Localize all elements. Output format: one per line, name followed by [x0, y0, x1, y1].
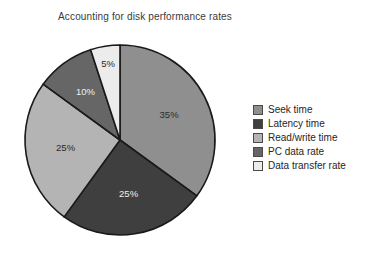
legend-item-label: Latency time	[268, 118, 325, 130]
legend-item[interactable]: Read/write time	[253, 131, 371, 145]
legend-item[interactable]: Data transfer rate	[253, 159, 371, 173]
pie-slice-value-label: 35%	[160, 109, 180, 120]
legend-swatch-icon	[253, 147, 263, 157]
pie-slice-value-label: 25%	[56, 142, 76, 153]
pie-slice-value-label: 25%	[119, 188, 139, 199]
legend-item[interactable]: PC data rate	[253, 145, 371, 159]
chart-legend: Seek timeLatency timeRead/write timePC d…	[253, 103, 371, 173]
legend-item[interactable]: Seek time	[253, 103, 371, 117]
pie-chart-svg: 35%25%25%10%5%	[24, 43, 218, 239]
legend-item-label: Data transfer rate	[268, 160, 346, 172]
legend-swatch-icon	[253, 119, 263, 129]
legend-item-label: PC data rate	[268, 146, 324, 158]
legend-swatch-icon	[253, 133, 263, 143]
chart-title: Accounting for disk performance rates	[0, 11, 290, 22]
legend-swatch-icon	[253, 105, 263, 115]
pie-chart-plot-area: 35%25%25%10%5%	[24, 43, 218, 239]
legend-swatch-icon	[253, 161, 263, 171]
pie-slice-value-label: 10%	[76, 86, 96, 97]
legend-item-label: Read/write time	[268, 132, 337, 144]
pie-chart-figure: Accounting for disk performance rates 35…	[0, 0, 373, 255]
legend-item-label: Seek time	[268, 104, 312, 116]
pie-slice-value-label: 5%	[101, 58, 115, 69]
legend-item[interactable]: Latency time	[253, 117, 371, 131]
pie-slices-group	[25, 45, 215, 235]
